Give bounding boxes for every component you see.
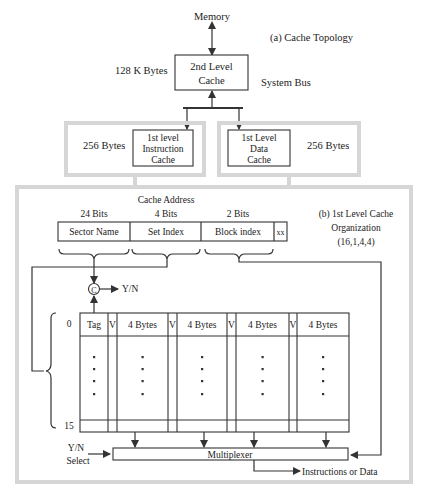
multiplexer-label: Multiplexer bbox=[208, 450, 254, 460]
sector-name-field: Sector Name bbox=[69, 227, 118, 237]
organization-title-1: (b) 1st Level Cache bbox=[319, 209, 394, 220]
cache-address-label: Cache Address bbox=[138, 195, 195, 205]
block-index-bits: 2 Bits bbox=[227, 209, 250, 219]
l1-data-label-3: Cache bbox=[247, 155, 271, 165]
l1-data-size: 256 Bytes bbox=[307, 140, 349, 151]
l2-cache-label-1: 2nd Level bbox=[190, 61, 232, 72]
comparator-symbol: C bbox=[91, 286, 96, 295]
sector-bits: 24 Bits bbox=[80, 209, 107, 219]
comparator-output: Y/N bbox=[122, 284, 139, 294]
select-label-1: Y/N bbox=[68, 443, 85, 453]
col-bytes: 4 Bytes bbox=[128, 320, 157, 330]
sector-brace bbox=[59, 249, 129, 259]
col-tag: Tag bbox=[87, 320, 101, 330]
set-index-bits: 4 Bits bbox=[155, 209, 178, 219]
topology-title: (a) Cache Topology bbox=[270, 32, 354, 44]
mux-output-label: Instructions or Data bbox=[302, 467, 378, 477]
block-index-brace bbox=[205, 249, 273, 259]
l1-instruction-size: 256 Bytes bbox=[83, 140, 125, 151]
l1-instruction-label-2: Instruction bbox=[142, 144, 183, 154]
l1-data-label-1: 1st Level bbox=[241, 133, 276, 143]
organization-title-3: (16,1,4,4) bbox=[337, 237, 374, 248]
l2-size-label: 128 K Bytes bbox=[115, 65, 168, 76]
cache-diagram: Memory (a) Cache Topology 2nd Level Cach… bbox=[0, 0, 425, 499]
select-label-2: Select bbox=[66, 456, 90, 466]
l1-instruction-label-3: Cache bbox=[151, 155, 175, 165]
organization-title-2: Organization bbox=[331, 223, 381, 233]
col-valid: V bbox=[290, 320, 297, 330]
cache-table bbox=[80, 313, 349, 432]
col-bytes: 4 Bytes bbox=[248, 320, 277, 330]
col-bytes: 4 Bytes bbox=[188, 320, 217, 330]
rows-brace bbox=[46, 313, 56, 428]
mux-output-arrow bbox=[254, 460, 300, 471]
col-valid: V bbox=[109, 320, 116, 330]
xx-field: xx bbox=[277, 228, 285, 237]
l1-instruction-label-1: 1st level bbox=[147, 133, 179, 143]
set-index-brace bbox=[132, 249, 200, 259]
l2-cache-label-2: Cache bbox=[198, 75, 225, 86]
col-bytes: 4 Bytes bbox=[309, 320, 338, 330]
system-bus-label: System Bus bbox=[261, 77, 311, 88]
set-index-field: Set Index bbox=[148, 227, 184, 237]
col-valid: V bbox=[228, 320, 235, 330]
block-index-field: Block index bbox=[215, 227, 261, 237]
row-last-label: 15 bbox=[64, 421, 74, 431]
col-valid: V bbox=[169, 320, 176, 330]
memory-label: Memory bbox=[194, 11, 231, 22]
l1-data-label-2: Data bbox=[250, 144, 269, 154]
row-first-label: 0 bbox=[67, 319, 72, 329]
